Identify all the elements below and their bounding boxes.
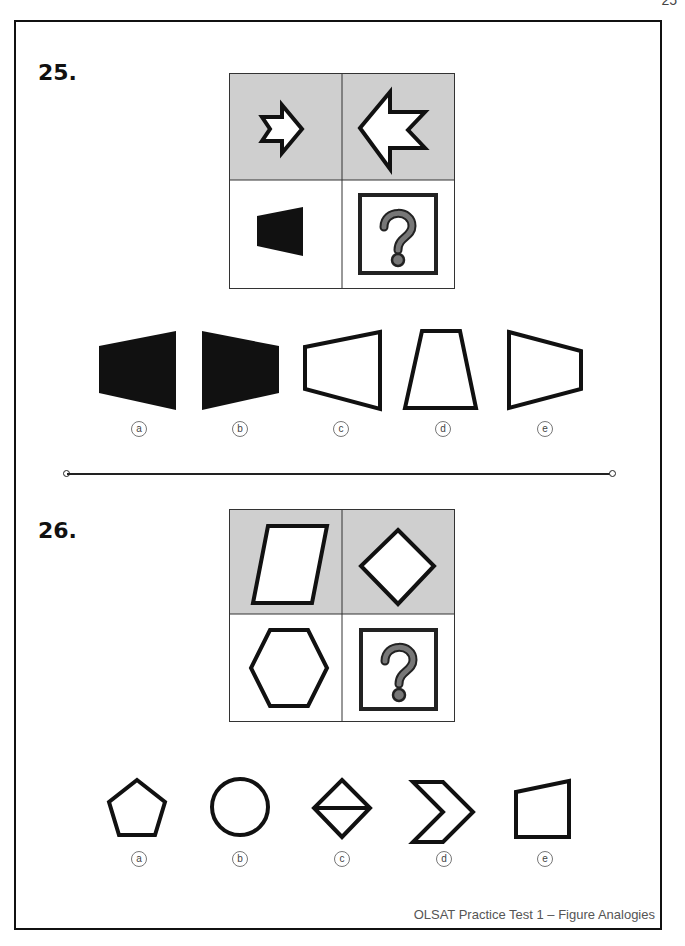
question-25-options [85, 325, 595, 420]
option-c-label[interactable]: c [333, 421, 349, 437]
question-mark-icon [361, 630, 436, 709]
question-number-25: 25. [38, 60, 77, 85]
divider-endpoint-right [609, 470, 616, 477]
option-d-chevron[interactable] [413, 782, 473, 842]
option-e-shape[interactable] [509, 332, 581, 408]
section-divider [67, 473, 613, 475]
parallelogram-icon [253, 526, 327, 603]
option-e-label[interactable]: e [537, 421, 553, 437]
question-number-26: 26. [38, 518, 77, 543]
question-25-matrix [229, 73, 455, 289]
option-e-quadrilateral[interactable] [516, 781, 569, 837]
option-d-shape[interactable] [405, 331, 476, 408]
option-c-shape[interactable] [305, 332, 380, 409]
option-a-label[interactable]: a [131, 421, 147, 437]
option-d-label[interactable]: d [436, 851, 452, 867]
option-c-split-diamond[interactable] [314, 780, 370, 837]
option-a-pentagon[interactable] [109, 780, 165, 835]
hexagon-icon [251, 630, 327, 706]
question-26-matrix [229, 509, 455, 722]
question-mark-icon [360, 195, 436, 273]
option-d-label[interactable]: d [435, 421, 451, 437]
footer-caption: OLSAT Practice Test 1 – Figure Analogies [414, 907, 655, 922]
option-b-label[interactable]: b [232, 421, 248, 437]
option-a-shape[interactable] [99, 331, 176, 410]
option-b-circle[interactable] [212, 779, 268, 835]
page-number: 25 [661, 0, 677, 8]
option-e-label[interactable]: e [537, 851, 553, 867]
black-trapezoid-icon [257, 207, 303, 256]
question-26-options [95, 770, 595, 845]
option-a-label[interactable]: a [131, 851, 147, 867]
option-c-label[interactable]: c [334, 851, 350, 867]
option-b-shape[interactable] [202, 331, 279, 410]
option-b-label[interactable]: b [232, 851, 248, 867]
